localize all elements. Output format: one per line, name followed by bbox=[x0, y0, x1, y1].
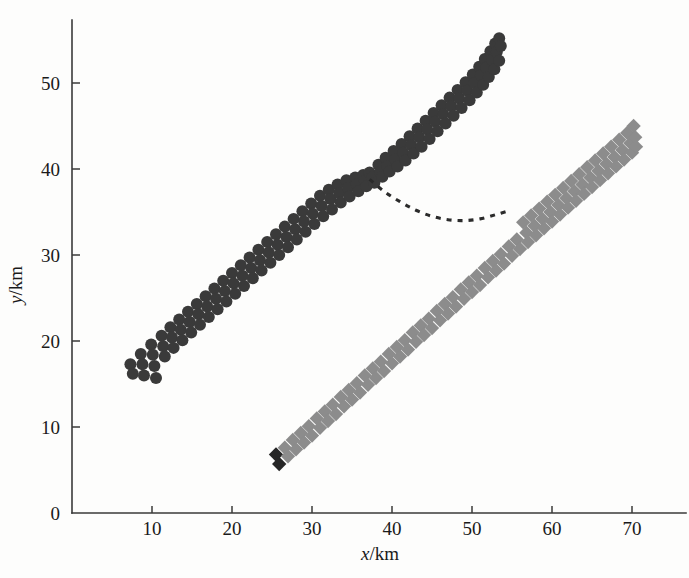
data-point-circle bbox=[135, 348, 147, 360]
data-point-circle bbox=[127, 368, 139, 380]
data-point-circle bbox=[145, 338, 157, 350]
data-point-circle bbox=[148, 360, 160, 372]
y-axis-title-unit: /km bbox=[5, 266, 26, 296]
x-tick-label: 70 bbox=[623, 518, 642, 539]
y-axis-title-var: y bbox=[5, 295, 26, 306]
tick-layer: 1020304050607001020304050 bbox=[41, 73, 642, 539]
data-point-circle bbox=[493, 55, 505, 67]
data-point-circle bbox=[147, 349, 159, 361]
plot-canvas: 1020304050607001020304050 x/km y/km bbox=[0, 0, 689, 578]
x-tick-label: 60 bbox=[543, 518, 562, 539]
data-point-circle bbox=[159, 350, 171, 362]
y-axis-title: y/km bbox=[5, 266, 26, 306]
y-tick-label: 40 bbox=[41, 159, 60, 180]
x-axis-title: x/km bbox=[360, 543, 399, 564]
x-axis-title-unit: /km bbox=[369, 543, 399, 564]
data-point-circle bbox=[495, 40, 507, 52]
annotation-layer bbox=[370, 179, 511, 220]
y-tick-label: 0 bbox=[51, 503, 61, 524]
x-tick-label: 40 bbox=[383, 518, 402, 539]
x-tick-label: 50 bbox=[463, 518, 482, 539]
x-tick-label: 10 bbox=[143, 518, 162, 539]
data-marker-layer bbox=[124, 32, 643, 471]
series-gray-diamonds bbox=[269, 119, 643, 471]
data-point-circle bbox=[136, 358, 148, 370]
series-dark-circles bbox=[124, 32, 506, 384]
y-tick-label: 20 bbox=[41, 331, 60, 352]
x-tick-label: 30 bbox=[303, 518, 322, 539]
y-tick-label: 30 bbox=[41, 245, 60, 266]
dashed-transition-curve bbox=[370, 179, 511, 220]
x-tick-label: 20 bbox=[223, 518, 242, 539]
scatter-plot-figure: 1020304050607001020304050 x/km y/km bbox=[0, 0, 689, 578]
data-point-circle bbox=[150, 372, 162, 384]
axis-layer bbox=[72, 20, 686, 513]
y-tick-label: 50 bbox=[41, 73, 60, 94]
data-point-circle bbox=[157, 340, 169, 352]
data-point-circle bbox=[156, 330, 168, 342]
data-point-circle bbox=[138, 369, 150, 381]
y-tick-label: 10 bbox=[41, 417, 60, 438]
